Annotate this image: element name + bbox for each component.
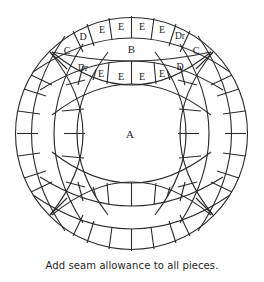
label-top-inner-0: Dr bbox=[78, 63, 89, 73]
caption: Add seam allowance to all pieces. bbox=[0, 260, 264, 271]
label-top-inner-4: E bbox=[159, 68, 165, 79]
double-wedding-ring-diagram: A B C C D E E E E Dr Dr E E E E D bbox=[0, 0, 264, 282]
label-top-inner-3: E bbox=[139, 71, 145, 82]
label-top-outer-5: Dr bbox=[175, 31, 186, 41]
label-c-left: C bbox=[64, 45, 71, 56]
label-c-right: C bbox=[193, 45, 200, 56]
label-top-outer-0: D bbox=[79, 31, 86, 42]
label-top-outer-4: E bbox=[159, 24, 165, 35]
label-top-outer-1: E bbox=[99, 24, 105, 35]
label-a: A bbox=[126, 128, 134, 140]
bottom-band-dividers bbox=[50, 182, 213, 251]
label-top-inner-2: E bbox=[118, 71, 124, 82]
label-top-inner-5: D bbox=[176, 61, 183, 72]
label-top-outer-3: E bbox=[139, 21, 145, 32]
label-top-outer-2: E bbox=[118, 21, 124, 32]
label-b: B bbox=[128, 43, 135, 55]
label-top-inner-1: E bbox=[98, 68, 104, 79]
